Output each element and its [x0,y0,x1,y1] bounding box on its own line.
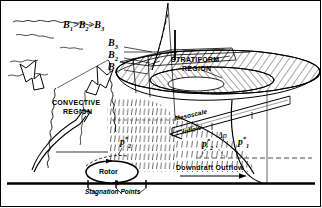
p-star-2-mid-label: p*2 [202,138,213,151]
convective-region-label-line1: CONVECTIVE [52,99,101,106]
updraft-arrow-left [20,60,44,90]
stratiform-region-label-line1: STRATIFORM [171,56,219,63]
stratiform-region-label-line2: REGION [182,65,211,72]
delta-p-label: Δp [218,132,227,140]
convective-region-label-line2: REGION [63,108,92,115]
buoyancy-layer-b1-label: B1 [108,62,118,75]
convective-cloud-outline [8,20,116,168]
p-star-2-left-label: p*2 [120,136,131,149]
p-star-1-label: p*1 [238,136,249,149]
stagnation-points-label: Stagnation Points [85,189,140,196]
diagram-canvas [0,0,322,208]
rotor-label: Rotor [99,168,118,175]
downdraft-outflow-label: Downdraft Outflow [176,164,244,171]
mcs-schematic-figure: B1>B2>B3 B3 B2 B1 STRATIFORM REGION CONV… [0,0,322,208]
convective-updraft-arrow [32,110,90,172]
buoyancy-inequality-label: B1>B2>B3 [63,20,104,33]
